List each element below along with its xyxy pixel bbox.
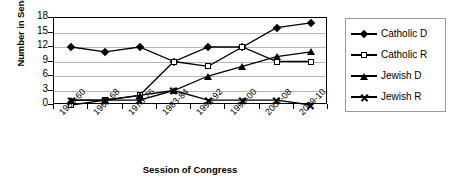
legend-label: Catholic R <box>381 48 427 62</box>
y-tick-label: 9 <box>18 54 48 65</box>
y-tick-label: 6 <box>18 68 48 79</box>
y-tick-label: 0 <box>18 97 48 108</box>
legend-label: Jewish D <box>381 69 422 83</box>
data-point-marker <box>307 48 315 55</box>
legend-marker-icon <box>360 30 368 38</box>
data-point-marker <box>171 59 177 65</box>
legend-marker-icon <box>360 73 368 80</box>
data-point-marker <box>238 63 246 70</box>
x-tick-mark <box>224 104 225 109</box>
data-point-marker <box>273 53 281 60</box>
data-point-marker <box>308 59 314 65</box>
x-tick-mark <box>122 104 123 109</box>
y-tick-label: 3 <box>18 83 48 94</box>
chart-figure: Number in Senate 0369121518 1959-601967-… <box>0 0 452 184</box>
legend-item-catholic-d[interactable]: Catholic D <box>351 27 443 41</box>
legend-item-jewish-r[interactable]: Jewish R <box>351 90 443 104</box>
legend-label: Catholic D <box>381 27 427 41</box>
x-tick-mark <box>53 104 54 109</box>
y-tick-label: 15 <box>18 25 48 36</box>
x-axis-title: Session of Congress <box>53 164 327 175</box>
data-point-marker <box>205 63 211 69</box>
data-point-marker <box>204 73 212 80</box>
chart-legend: Catholic DCatholic RJewish DJewish R <box>345 18 446 112</box>
x-tick-mark <box>327 104 328 109</box>
x-tick-mark <box>293 104 294 109</box>
x-tick-mark <box>87 104 88 109</box>
x-tick-mark <box>259 104 260 109</box>
legend-marker-icon <box>361 52 367 58</box>
y-tick-label: 18 <box>18 10 48 21</box>
x-tick-mark <box>156 104 157 109</box>
legend-marker-icon <box>360 93 369 102</box>
legend-item-jewish-d[interactable]: Jewish D <box>351 69 443 83</box>
data-point-marker <box>239 44 245 50</box>
x-tick-mark <box>190 104 191 109</box>
legend-label: Jewish R <box>381 90 422 104</box>
y-tick-label: 12 <box>18 39 48 50</box>
legend-item-catholic-r[interactable]: Catholic R <box>351 48 443 62</box>
